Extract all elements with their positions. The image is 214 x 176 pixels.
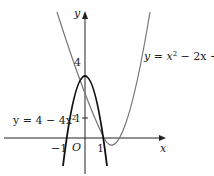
y-axis-label: y <box>73 7 81 20</box>
tick-label-x1: 1 <box>97 142 104 155</box>
x-axis-arrow-icon <box>159 135 166 141</box>
curve2-equation: y = 4 − 4x2 <box>12 114 76 127</box>
curve1-equation: y = x2 − 2x + 1 <box>143 50 214 63</box>
tick-label-xm1: −1 <box>51 142 67 155</box>
origin-label: O <box>72 141 81 154</box>
graph: y x O 4 1 −1 1 y = x2 − 2x + 1 y = 4 − 4… <box>0 0 214 176</box>
tick-label-y4: 4 <box>74 56 81 69</box>
y-axis-arrow-icon <box>82 11 88 19</box>
x-axis-label: x <box>160 142 167 155</box>
